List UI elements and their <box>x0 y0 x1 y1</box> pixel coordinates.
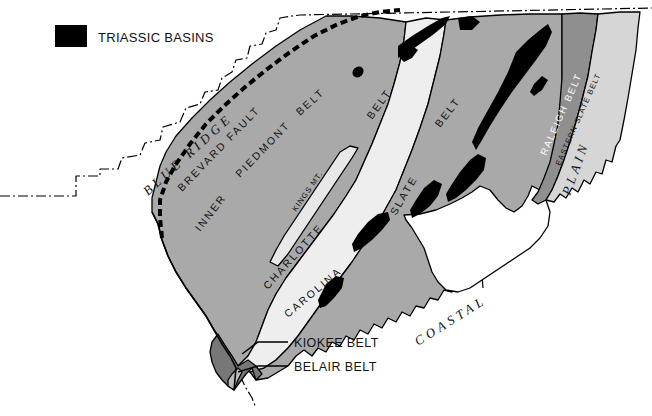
belair-belt-callout-label: BELAIR BELT <box>294 360 377 374</box>
legend-triassic-swatch <box>55 25 87 47</box>
kiokee-belt-callout-label: KIOKEE BELT <box>294 336 379 350</box>
geologic-belt-map: BLUE RIDGE BREVARD FAULT INNER PIEDMONT … <box>0 0 652 416</box>
legend-triassic-label: TRIASSIC BASINS <box>98 30 214 45</box>
